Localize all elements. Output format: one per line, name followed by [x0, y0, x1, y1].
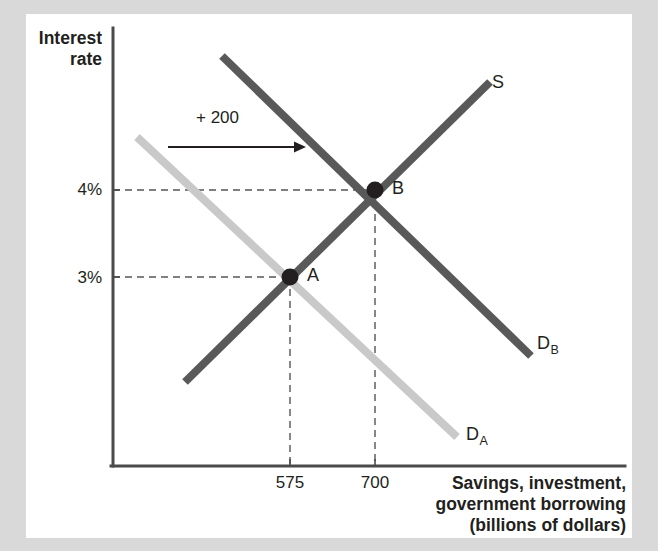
x-tick-label-575: 575 — [260, 473, 320, 493]
x-tick-label-700: 700 — [345, 473, 405, 493]
curve-label-demand-a: DA — [466, 424, 488, 448]
curve-label-supply-text: S — [492, 72, 504, 92]
chart-panel — [26, 14, 632, 538]
shift-annotation-label: + 200 — [196, 108, 239, 128]
y-tick-label-3-percent: 3% — [40, 268, 102, 288]
x-axis-title: Savings, investment, government borrowin… — [392, 473, 626, 536]
y-tick-label-4-percent: 4% — [40, 180, 102, 200]
curve-label-demand-a-subscript: A — [479, 434, 488, 448]
point-label-a: A — [307, 265, 319, 286]
curve-label-demand-a-text: D — [466, 424, 479, 444]
figure-root: Interest rate Savings, investment, gover… — [0, 0, 658, 551]
curve-label-demand-b: DB — [537, 333, 559, 357]
curve-label-supply: S — [492, 72, 504, 93]
point-label-b: B — [392, 178, 404, 199]
y-axis-title: Interest rate — [24, 28, 102, 70]
curve-label-demand-b-subscript: B — [550, 343, 559, 357]
curve-label-demand-b-text: D — [537, 333, 550, 353]
